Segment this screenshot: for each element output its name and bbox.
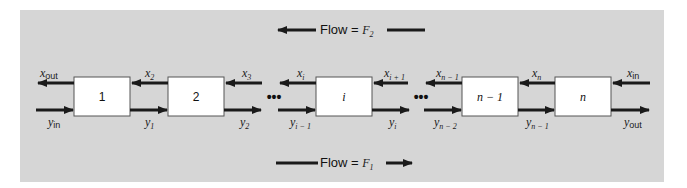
label-y-i-minus-1: yi − 1 — [289, 115, 311, 131]
stage-n-minus-1: n − 1 — [462, 77, 518, 116]
stage-i: i — [316, 77, 372, 116]
label-y-1: y1 — [144, 115, 154, 131]
ellipsis-left: ••• — [267, 89, 282, 105]
ellipsis-right: ••• — [414, 89, 429, 105]
label-x-i-plus-1: xi + 1 — [383, 66, 405, 82]
flow-top-subscript: 2 — [370, 30, 374, 39]
label-x-in: xin — [626, 66, 639, 81]
stage-label: n — [580, 90, 586, 104]
label-y-in: yin — [47, 115, 60, 130]
label-y-n-minus-1: yn − 1 — [525, 115, 549, 131]
stage-1: 1 — [74, 77, 130, 116]
svg-text:Flow = F1: Flow = F1 — [320, 155, 374, 172]
stage-label: 2 — [193, 90, 200, 104]
countercurrent-stage-diagram: Flow = F2 Flow = F1 1 2 i n − 1 n ••• ••… — [0, 0, 687, 188]
label-y-n-minus-2: yn − 2 — [433, 115, 457, 131]
label-x-n: xn — [531, 66, 541, 82]
label-x-out: xout — [39, 66, 58, 81]
label-x-2: x2 — [144, 66, 154, 82]
label-x-i: xi — [296, 66, 305, 82]
stage-2: 2 — [168, 77, 224, 116]
label-y-i: yi — [388, 115, 397, 131]
svg-text:Flow = F2: Flow = F2 — [320, 22, 374, 39]
label-y-out: yout — [623, 115, 642, 130]
flow-f1-indicator: Flow = F1 — [276, 155, 412, 172]
label-x-n-minus-1: xn − 1 — [435, 66, 459, 82]
stage-label: i — [342, 90, 345, 104]
flow-bottom-label: Flow = — [320, 155, 362, 170]
label-x-3: x3 — [241, 66, 251, 82]
label-y-2: y2 — [239, 115, 249, 131]
stage-label: n − 1 — [477, 90, 503, 104]
flow-bottom-subscript: 1 — [370, 163, 374, 172]
flow-f2-indicator: Flow = F2 — [278, 22, 425, 39]
flow-top-label: Flow = — [320, 22, 362, 37]
stage-label: 1 — [99, 90, 106, 104]
stage-n: n — [555, 77, 611, 116]
